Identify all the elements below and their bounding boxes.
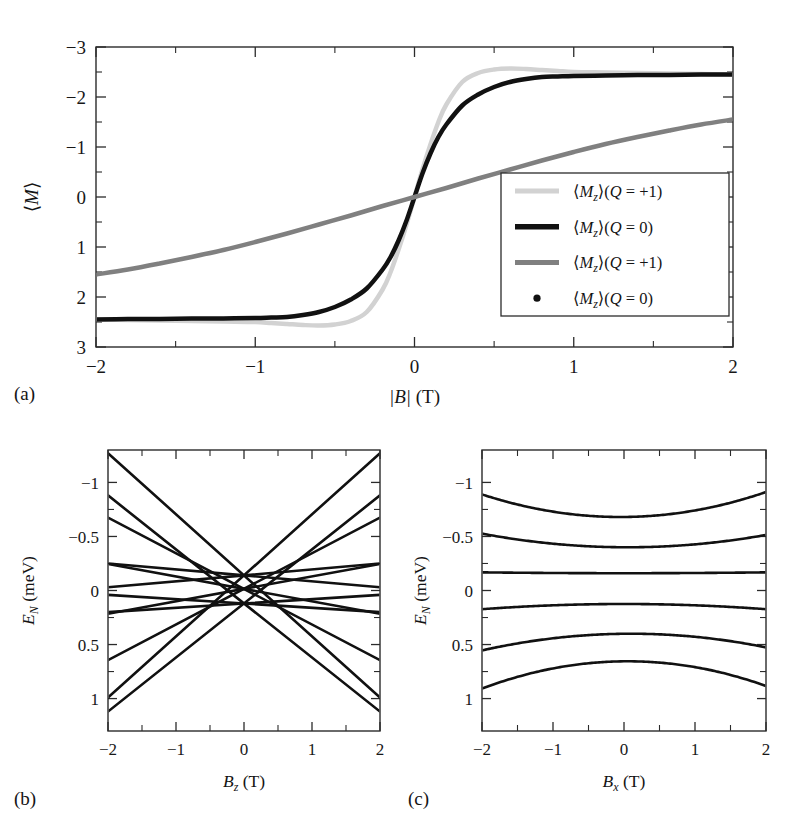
panel-c-ylabel: EN (meV) — [410, 556, 433, 626]
legend-label: ⟨Mz⟩(Q = 0) — [573, 218, 653, 240]
panel-b-frame — [108, 450, 380, 731]
panel-c-xlabel: Bx (T) — [603, 771, 646, 794]
y-tick-label: 0 — [91, 582, 100, 601]
x-tick-label: −2 — [473, 740, 491, 759]
y-tick-label: 0.5 — [452, 636, 473, 655]
energy-level-curve-4 — [482, 634, 766, 651]
panel-c-frame — [482, 450, 766, 731]
y-tick-label: −1 — [81, 474, 99, 493]
x-tick-label: −1 — [167, 740, 185, 759]
x-tick-label: 0 — [240, 740, 249, 759]
legend-marker-dot — [533, 295, 540, 302]
energy-level-curve-0 — [482, 492, 766, 517]
panel-a-ylabel: ⟨M⟩ — [21, 182, 42, 213]
panel-a-plot: −2−10123210−1−2−3|B| (T)⟨M⟩(a)⟨Mz⟩(Q = +… — [0, 0, 804, 420]
x-tick-label: −1 — [245, 356, 265, 377]
energy-level-curve-1 — [482, 534, 766, 548]
panel-b-label: (b) — [14, 788, 36, 810]
y-tick-label: 1 — [91, 690, 100, 709]
panel-a-legend: ⟨Mz⟩(Q = +1)⟨Mz⟩(Q = 0)⟨Mz⟩(Q = +1)⟨Mz⟩(… — [501, 173, 729, 316]
y-tick-label: 1 — [465, 690, 474, 709]
legend-label: ⟨Mz⟩(Q = +1) — [573, 253, 662, 275]
y-tick-label: −3 — [66, 37, 86, 58]
x-tick-label: 2 — [376, 740, 385, 759]
x-tick-label: 0 — [620, 740, 629, 759]
energy-level-curve-5 — [482, 661, 766, 688]
x-tick-label: −2 — [86, 356, 106, 377]
energy-level-curve-2 — [482, 572, 766, 573]
y-tick-label: 0 — [77, 187, 87, 208]
x-tick-label: −2 — [99, 740, 117, 759]
figure-root: −2−10123210−1−2−3|B| (T)⟨M⟩(a)⟨Mz⟩(Q = +… — [0, 0, 804, 828]
panel-c-label: (c) — [408, 788, 429, 810]
x-tick-label: 1 — [569, 356, 579, 377]
panel-c-plot: −2−101210.50−0.5−1Bx (T)EN (meV)(c) — [400, 420, 804, 828]
y-tick-label: 0.5 — [78, 636, 99, 655]
panel-b-levels — [108, 453, 380, 711]
x-tick-label: 1 — [308, 740, 317, 759]
y-tick-label: 2 — [77, 287, 87, 308]
legend-label: ⟨Mz⟩(Q = 0) — [573, 289, 653, 311]
y-tick-label: −0.5 — [442, 528, 473, 547]
y-tick-label: 1 — [77, 237, 87, 258]
energy-level-curve-3 — [482, 604, 766, 609]
x-tick-label: −1 — [544, 740, 562, 759]
x-tick-label: 2 — [762, 740, 771, 759]
y-tick-label: −2 — [66, 87, 86, 108]
legend-label: ⟨Mz⟩(Q = +1) — [573, 182, 662, 204]
y-tick-label: −1 — [66, 137, 86, 158]
panel-b-ylabel: EN (meV) — [18, 556, 41, 626]
panel-b-titles: Bz (T)EN (meV)(b) — [14, 556, 265, 810]
panel-c-titles: Bx (T)EN (meV)(c) — [408, 556, 646, 810]
panel-b-xlabel: Bz (T) — [223, 771, 265, 794]
panel-a-xlabel: |B| (T) — [389, 386, 440, 408]
y-tick-label: 0 — [465, 582, 474, 601]
x-tick-label: 2 — [728, 356, 738, 377]
x-tick-label: 1 — [691, 740, 700, 759]
y-tick-label: −1 — [455, 474, 473, 493]
panel-b-plot: −2−101210.50−0.5−1Bz (T)EN (meV)(b) — [0, 420, 404, 828]
x-tick-label: 0 — [410, 356, 420, 377]
panel-a-label: (a) — [14, 383, 35, 405]
y-tick-label: −0.5 — [68, 528, 99, 547]
panel-c-levels — [482, 492, 766, 689]
y-tick-label: 3 — [77, 337, 87, 358]
